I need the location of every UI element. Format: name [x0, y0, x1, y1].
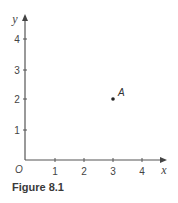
x-tick-label: 4: [139, 166, 145, 177]
y-tick-label: 1: [14, 125, 20, 136]
point-a: [111, 97, 115, 101]
coordinate-plot: 1 2 3 4 1 2 3 4 O x y A: [0, 0, 178, 203]
x-axis-label: x: [160, 163, 167, 177]
figure-caption: Figure 8.1: [12, 181, 64, 193]
origin-label: O: [15, 164, 23, 175]
point-a-label: A: [117, 87, 125, 98]
y-axis-label: y: [11, 12, 18, 26]
y-tick-label: 3: [14, 65, 20, 76]
y-axis-arrow-icon: [22, 14, 28, 21]
y-tick-label: 4: [14, 34, 20, 45]
x-tick-label: 1: [52, 166, 58, 177]
x-tick-label: 2: [81, 166, 87, 177]
x-tick-label: 3: [110, 166, 116, 177]
y-tick-label: 2: [14, 94, 20, 105]
